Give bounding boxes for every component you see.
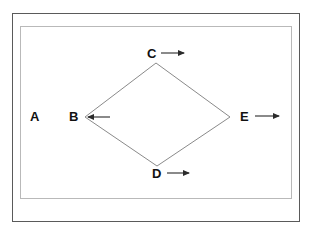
label-e: E xyxy=(240,110,249,123)
label-b: B xyxy=(69,110,78,123)
diagram-page: A B C D E xyxy=(0,0,314,236)
rhombus-figure xyxy=(0,0,314,236)
rhombus-shape xyxy=(85,63,230,166)
label-a: A xyxy=(30,110,39,123)
label-d: D xyxy=(152,167,161,180)
label-c: C xyxy=(147,47,156,60)
